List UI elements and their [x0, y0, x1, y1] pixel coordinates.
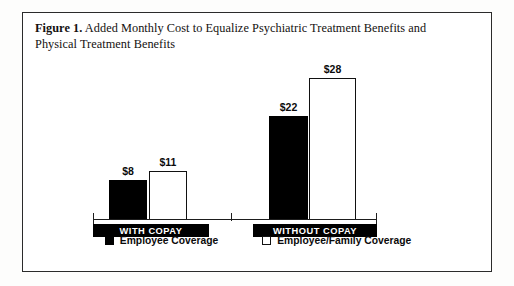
legend-entry-employee-coverage: Employee Coverage — [105, 235, 218, 246]
x-axis-line — [93, 219, 377, 220]
bar-value-label-with-copay-family: $11 — [147, 156, 189, 168]
legend-swatch-solid-icon — [105, 236, 114, 245]
bar-with-copay-family — [149, 171, 187, 220]
bar-value-label-with-copay-employee: $8 — [109, 165, 147, 177]
legend-swatch-hollow-icon — [262, 236, 271, 245]
legend-label-employee-coverage: Employee Coverage — [120, 235, 218, 246]
figure-screenshot: Figure 1. Added Monthly Cost to Equalize… — [0, 0, 514, 286]
bar-with-copay-employee — [109, 180, 147, 220]
figure-frame: Figure 1. Added Monthly Cost to Equalize… — [22, 12, 492, 272]
legend-entry-employee-family-coverage: Employee/Family Coverage — [262, 235, 411, 246]
chart-plot-area: $8 $11 $22 $28 WITH COPAY WITHOUT COPAY … — [23, 13, 493, 273]
bar-without-copay-employee — [269, 116, 308, 220]
bar-value-label-without-copay-family: $28 — [309, 63, 356, 75]
bar-value-label-without-copay-employee: $22 — [267, 101, 310, 113]
legend-label-employee-family-coverage: Employee/Family Coverage — [277, 235, 411, 246]
bar-without-copay-family — [309, 78, 356, 220]
x-axis-tick-middle — [231, 213, 232, 221]
chart-legend: Employee Coverage Employee/Family Covera… — [23, 235, 493, 246]
